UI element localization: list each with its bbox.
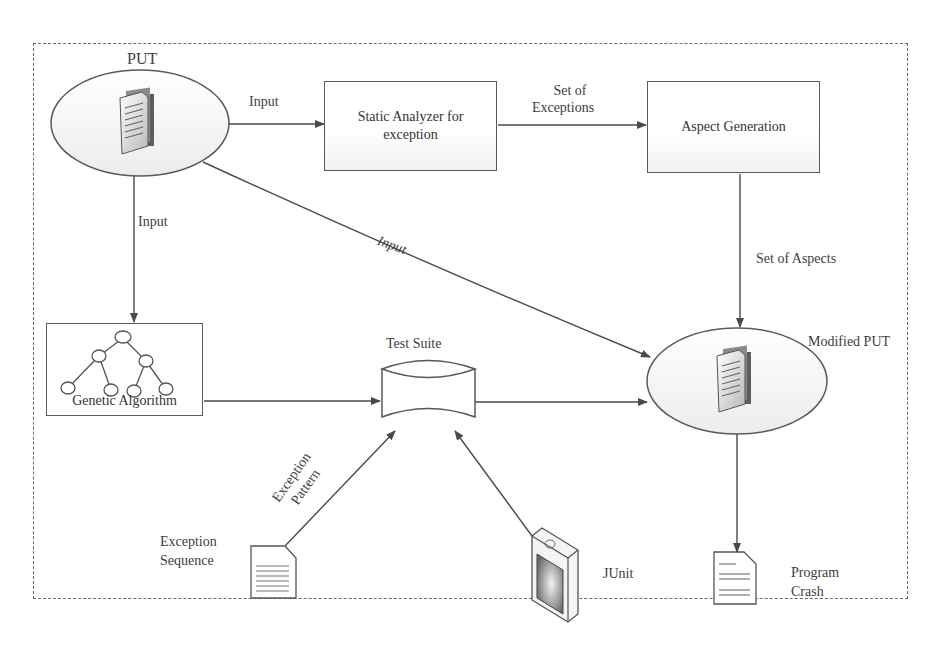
edge-junit-to-test-suite xyxy=(455,431,532,536)
set-of-label: Set of xyxy=(542,82,598,99)
document-icon xyxy=(251,546,296,598)
put-node xyxy=(51,70,229,176)
exceptions-label: Exceptions xyxy=(528,99,598,116)
edge-label-input-left: Input xyxy=(138,213,168,230)
modified-put-node xyxy=(647,328,827,434)
static-analyzer-box: Static Analyzer for exception xyxy=(324,81,497,171)
program-crash-label: Program Crash xyxy=(791,563,839,601)
exception-sequence-label: Exception Sequence xyxy=(160,532,217,570)
test-suite-label: Test Suite xyxy=(386,335,441,352)
genetic-algorithm-box: Genetic Algorithm xyxy=(46,323,203,416)
exception-seq-line1: Exception xyxy=(160,532,217,551)
junit-device-icon xyxy=(532,528,578,622)
document-icon xyxy=(714,552,756,604)
put-label: PUT xyxy=(127,50,157,67)
edge-label-input-top: Input xyxy=(249,93,279,110)
crash-line: Crash xyxy=(791,582,839,601)
edge-label-set-of-aspects: Set of Aspects xyxy=(756,250,836,267)
documents-icon xyxy=(717,346,751,412)
aspect-generation-label: Aspect Generation xyxy=(681,118,786,136)
test-suite-cylinder xyxy=(382,361,475,418)
program-line: Program xyxy=(791,563,839,582)
aspect-generation-box: Aspect Generation xyxy=(647,81,820,173)
genetic-algorithm-label: Genetic Algorithm xyxy=(72,392,177,410)
framework-diagram: Static Analyzer for exception Aspect Gen… xyxy=(0,0,942,662)
documents-icon xyxy=(120,88,154,154)
static-analyzer-label-2: exception xyxy=(358,126,464,144)
junit-label: JUnit xyxy=(603,565,633,582)
exception-seq-line2: Sequence xyxy=(160,551,217,570)
static-analyzer-label-1: Static Analyzer for xyxy=(358,108,464,126)
edge-put-to-modified-put xyxy=(203,162,650,357)
edge-label-set-of-exceptions: Set of Exceptions xyxy=(542,82,598,116)
modified-put-label: Modified PUT xyxy=(808,333,890,350)
